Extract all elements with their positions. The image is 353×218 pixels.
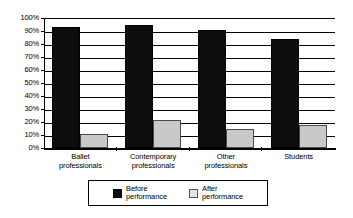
x-axis-category-label: Balletprofessionals bbox=[44, 151, 117, 173]
bar-group bbox=[262, 18, 335, 148]
y-axis-tick-label: 60% bbox=[25, 66, 41, 74]
y-axis-tick-label: 30% bbox=[25, 105, 41, 113]
chart-legend: BeforeperformanceAfterperformance bbox=[88, 180, 268, 206]
y-axis-tick-label: 40% bbox=[25, 92, 41, 100]
y-axis-tick-label: 0% bbox=[29, 144, 41, 152]
bar-group bbox=[190, 18, 263, 148]
legend-item: Beforeperformance bbox=[113, 185, 167, 202]
bar-before-performance bbox=[52, 27, 80, 148]
legend-item-label: Beforeperformance bbox=[126, 185, 167, 202]
y-axis-tick-label: 70% bbox=[25, 53, 41, 61]
x-axis-category-labels: BalletprofessionalsContemporaryprofessio… bbox=[44, 151, 335, 173]
y-axis: 100%90%80%70%60%50%40%30%20%10%0% bbox=[0, 18, 44, 148]
y-axis-tick-label: 50% bbox=[25, 79, 41, 87]
y-axis-tick-label: 80% bbox=[25, 40, 41, 48]
bar-before-performance bbox=[198, 30, 226, 148]
bar-chart: 100%90%80%70%60%50%40%30%20%10%0% Ballet… bbox=[0, 0, 353, 218]
x-axis-category-label: Students bbox=[262, 151, 335, 173]
bar-before-performance bbox=[125, 25, 153, 149]
y-axis-tick-label: 90% bbox=[25, 27, 41, 35]
bar-after-performance bbox=[80, 134, 108, 148]
bar-after-performance bbox=[226, 129, 254, 148]
x-axis-category-label: Otherprofessionals bbox=[190, 151, 263, 173]
y-axis-tick-label: 100% bbox=[21, 14, 41, 22]
legend-item-label: Afterperformance bbox=[202, 185, 243, 202]
legend-item: Afterperformance bbox=[189, 185, 243, 202]
bar-group bbox=[44, 18, 117, 148]
bar-group bbox=[117, 18, 190, 148]
x-axis-category-label: Contemporaryprofessionals bbox=[117, 151, 190, 173]
legend-swatch-after-icon bbox=[189, 189, 198, 198]
bar-after-performance bbox=[153, 120, 181, 148]
bars-layer bbox=[44, 18, 335, 148]
legend-swatch-before-icon bbox=[113, 189, 122, 198]
y-axis-tick-label: 10% bbox=[25, 131, 41, 139]
y-axis-tick-label: 20% bbox=[25, 118, 41, 126]
bar-before-performance bbox=[271, 39, 299, 148]
bar-after-performance bbox=[299, 125, 327, 148]
x-axis-baseline bbox=[44, 148, 336, 150]
